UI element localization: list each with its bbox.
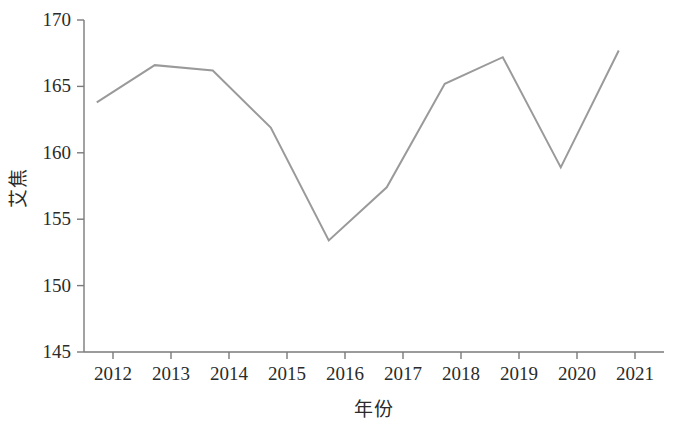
y-tick-label: 145 (43, 342, 72, 361)
y-axis-title: 艾焦 (3, 158, 30, 218)
y-tick-label: 160 (43, 143, 72, 162)
axis-lines (84, 20, 664, 352)
x-tick-label: 2012 (83, 364, 143, 383)
x-axis-ticks (113, 352, 635, 359)
x-tick-label: 2017 (373, 364, 433, 383)
x-tick-label: 2016 (315, 364, 375, 383)
x-tick-label: 2019 (489, 364, 549, 383)
y-tick-label: 150 (43, 276, 72, 295)
y-tick-label: 165 (43, 76, 72, 95)
data-line-series-1 (97, 51, 619, 241)
x-tick-label: 2014 (199, 364, 259, 383)
x-tick-label: 2013 (141, 364, 201, 383)
x-tick-label: 2021 (605, 364, 665, 383)
x-tick-label: 2018 (431, 364, 491, 383)
x-tick-label: 2015 (257, 364, 317, 383)
x-axis-title: 年份 (314, 394, 434, 421)
x-tick-label: 2020 (547, 364, 607, 383)
y-tick-label: 170 (43, 10, 72, 29)
y-axis-ticks (77, 20, 84, 352)
y-tick-label: 155 (43, 209, 72, 228)
